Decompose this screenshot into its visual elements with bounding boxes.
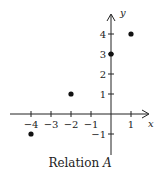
y-tick-label: 4 [100,29,106,40]
x-tick-label: 1 [128,119,134,130]
y-tick-label: 1 [100,89,106,100]
relation-scatter-plot: −4−3−2−11−11234 x y [0,0,160,176]
x-tick-label: −4 [24,119,39,130]
data-point [108,51,113,56]
chart-caption: Relation A [0,156,160,170]
ticks: −4−3−2−11−11234 [24,29,135,140]
y-tick-label: −1 [91,129,106,140]
x-tick-label: −3 [44,119,59,130]
data-point [128,31,133,36]
x-axis-label: x [148,118,154,129]
caption-variable: A [103,156,112,170]
y-tick-label: 2 [100,69,106,80]
y-axis-label: y [119,7,126,18]
caption-text: Relation [48,156,103,170]
y-tick-label: 3 [100,49,106,60]
data-point [68,91,73,96]
data-point [28,131,33,136]
x-tick-label: −2 [64,119,79,130]
